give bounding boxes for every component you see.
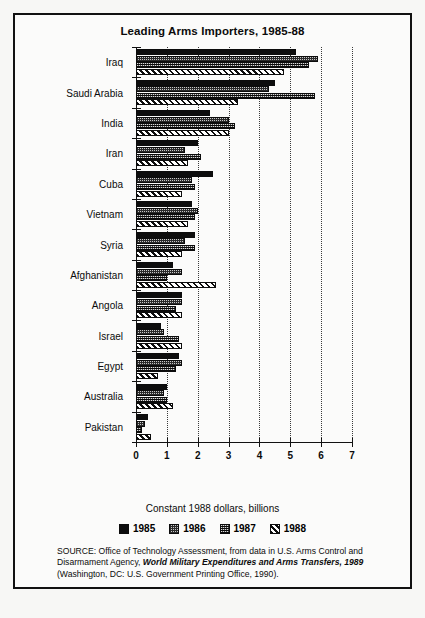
bar-angola-1988	[136, 312, 182, 318]
bar-india-1988	[136, 130, 229, 136]
category-label-cuba: Cuba	[23, 178, 123, 189]
x-tick-label-3: 3	[226, 450, 232, 461]
gridline-2	[198, 47, 199, 442]
source-publication-title: World Military Expenditures	[143, 557, 257, 567]
bar-india-1987	[136, 123, 235, 129]
y-tick-3	[132, 138, 141, 139]
legend-label-1986: 1986	[183, 523, 205, 534]
bar-india-1985	[136, 110, 210, 116]
source-publication-subtitle: and Arms Transfers, 1989	[259, 557, 364, 567]
category-label-india: India	[23, 117, 123, 128]
bar-vietnam-1985	[136, 201, 192, 207]
x-tick-label-5: 5	[288, 450, 294, 461]
category-label-afghanistan: Afghanistan	[23, 269, 123, 280]
x-tick-label-0: 0	[133, 450, 139, 461]
bar-iran-1985	[136, 140, 198, 146]
bar-cuba-1986	[136, 177, 192, 183]
y-tick-5	[132, 199, 141, 200]
x-tick-label-2: 2	[195, 450, 201, 461]
bar-syria-1987	[136, 245, 195, 251]
figure-content: Leading Arms Importers, 1985-88 IraqSaud…	[15, 15, 410, 587]
bar-vietnam-1988	[136, 221, 188, 227]
bar-saudi-arabia-1985	[136, 80, 275, 86]
x-tick-label-1: 1	[164, 450, 170, 461]
bar-iran-1988	[136, 160, 188, 166]
legend-item-1988: 1988	[270, 523, 306, 534]
category-label-iran: Iran	[23, 148, 123, 159]
y-tick-end	[132, 442, 141, 443]
bar-australia-1988	[136, 403, 173, 409]
x-tick-4	[259, 438, 260, 447]
x-tick-label-7: 7	[349, 450, 355, 461]
category-label-egypt: Egypt	[23, 361, 123, 372]
bar-afghanistan-1985	[136, 262, 173, 268]
bar-cuba-1988	[136, 191, 182, 197]
legend-swatch-dark-checker	[220, 524, 230, 534]
bar-india-1986	[136, 117, 229, 123]
chart-legend: 1985198619871988	[15, 523, 410, 534]
bar-vietnam-1987	[136, 214, 195, 220]
page-title: Leading Arms Importers, 1985-88	[15, 25, 410, 37]
category-label-angola: Angola	[23, 300, 123, 311]
y-tick-6	[132, 229, 141, 230]
legend-item-1986: 1986	[169, 523, 205, 534]
bar-egypt-1986	[136, 360, 182, 366]
bar-iraq-1986	[136, 56, 318, 62]
category-label-iraq: Iraq	[23, 57, 123, 68]
legend-item-1985: 1985	[119, 523, 155, 534]
y-tick-11	[132, 381, 141, 382]
source-line-3-plain: (Washington, DC: U.S. Government	[57, 569, 193, 579]
bar-pakistan-1987	[136, 427, 142, 433]
bar-cuba-1985	[136, 171, 213, 177]
bar-iraq-1988	[136, 69, 284, 75]
gridline-7	[352, 47, 353, 442]
x-tick-label-4: 4	[257, 450, 263, 461]
y-tick-0	[132, 47, 141, 48]
bar-pakistan-1988	[136, 434, 151, 440]
legend-swatch-light-stipple	[169, 524, 179, 534]
y-tick-12	[132, 412, 141, 413]
bar-pakistan-1985	[136, 414, 148, 420]
x-axis-caption: Constant 1988 dollars, billions	[15, 503, 410, 514]
bar-saudi-arabia-1988	[136, 99, 238, 105]
category-label-saudi-arabia: Saudi Arabia	[23, 87, 123, 98]
figure-border: Leading Arms Importers, 1985-88 IraqSaud…	[13, 13, 412, 589]
gridline-6	[321, 47, 322, 442]
bar-cuba-1987	[136, 184, 195, 190]
bar-afghanistan-1988	[136, 282, 216, 288]
bar-afghanistan-1987	[136, 275, 167, 281]
bar-israel-1986	[136, 329, 164, 335]
y-tick-1	[132, 77, 141, 78]
source-line-4: Printing Office, 1990).	[196, 569, 279, 579]
y-tick-8	[132, 290, 141, 291]
x-tick-2	[198, 438, 199, 447]
bar-iraq-1987	[136, 62, 309, 68]
y-tick-10	[132, 351, 141, 352]
legend-swatch-solid-black	[119, 524, 129, 534]
category-axis-labels: IraqSaudi ArabiaIndiaIranCubaVietnamSyri…	[23, 47, 123, 457]
bar-saudi-arabia-1986	[136, 86, 269, 92]
bar-iran-1987	[136, 154, 201, 160]
x-axis-line	[136, 442, 352, 443]
category-label-australia: Australia	[23, 391, 123, 402]
bar-angola-1986	[136, 299, 182, 305]
legend-item-1987: 1987	[220, 523, 256, 534]
x-tick-1	[167, 438, 168, 447]
bar-saudi-arabia-1987	[136, 93, 315, 99]
bar-iraq-1985	[136, 49, 296, 55]
figure-page: Leading Arms Importers, 1985-88 IraqSaud…	[0, 0, 425, 618]
gridline-4	[259, 47, 260, 442]
category-label-syria: Syria	[23, 239, 123, 250]
x-tick-7	[352, 438, 353, 447]
source-label: SOURCE:	[57, 546, 96, 556]
legend-label-1985: 1985	[133, 523, 155, 534]
bar-egypt-1987	[136, 366, 176, 372]
x-tick-label-6: 6	[318, 450, 324, 461]
bar-angola-1985	[136, 292, 182, 298]
bar-israel-1988	[136, 343, 182, 349]
bar-australia-1987	[136, 397, 167, 403]
y-tick-9	[132, 320, 141, 321]
y-tick-7	[132, 260, 141, 261]
bar-australia-1986	[136, 390, 164, 396]
bar-angola-1987	[136, 306, 176, 312]
